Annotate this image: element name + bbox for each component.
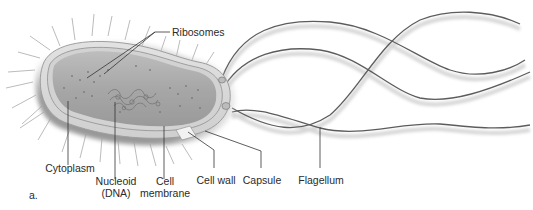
label-cell-wall: Cell wall [194, 174, 238, 186]
label-nucleoid-dna: (DNA) [91, 187, 141, 199]
bacterium-diagram: Ribosomes Cytoplasm Nucleoid (DNA) Cell … [0, 0, 533, 210]
label-cytoplasm: Cytoplasm [42, 162, 98, 174]
label-flagellum: Flagellum [296, 174, 346, 186]
panel-letter: a. [29, 189, 38, 201]
label-nucleoid: Nucleoid [91, 175, 141, 187]
flagella-shadows [222, 17, 530, 136]
label-ribosomes: Ribosomes [172, 26, 225, 38]
flagella [222, 12, 530, 131]
label-cell-membrane: Cell [140, 175, 190, 187]
label-cell-membrane-line2: membrane [136, 187, 194, 199]
label-capsule: Capsule [240, 174, 284, 186]
